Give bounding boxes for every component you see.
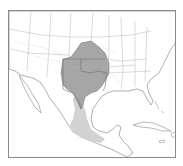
- range-map: [8, 10, 176, 158]
- map-svg: [9, 11, 176, 158]
